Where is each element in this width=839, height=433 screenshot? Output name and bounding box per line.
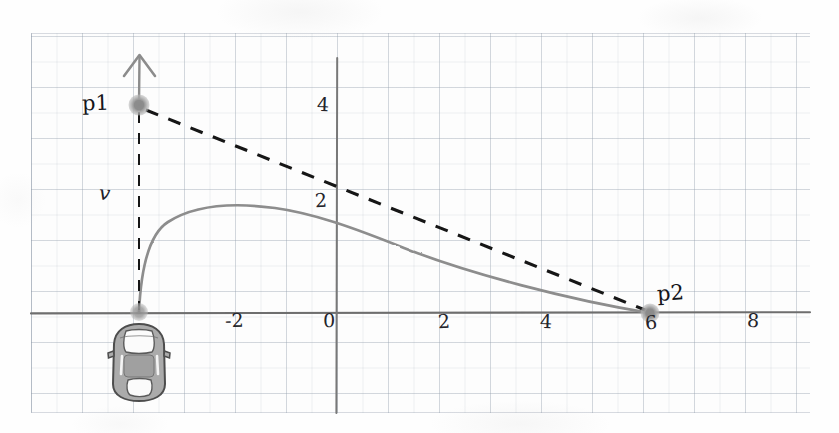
point-marker-p1-core xyxy=(134,100,144,110)
x-tick-label-2: 2 xyxy=(438,312,451,332)
trajectory-curve xyxy=(139,205,650,313)
point-label-p2: p2 xyxy=(656,282,684,305)
y-tick-label-4: 4 xyxy=(317,95,330,114)
car-top-view xyxy=(108,324,170,401)
x-tick-label-neg2: -2 xyxy=(225,311,244,331)
y-axis-line xyxy=(336,58,337,413)
x-tick-label-4: 4 xyxy=(540,312,553,331)
drawing-layer xyxy=(0,0,839,433)
y-tick-label-2: 2 xyxy=(315,191,328,211)
x-tick-label-8: 8 xyxy=(747,311,760,331)
sight-line-dashed xyxy=(146,110,650,312)
point-marker-car-origin xyxy=(130,303,148,321)
x-tick-label-0: 0 xyxy=(323,311,335,330)
x-tick-label-6: 6 xyxy=(644,313,657,333)
vector-label-v: v xyxy=(98,183,111,204)
point-label-p1: p1 xyxy=(82,93,110,115)
sketch-canvas: p1 p2 v -2 0 2 4 6 8 2 4 xyxy=(0,0,839,433)
